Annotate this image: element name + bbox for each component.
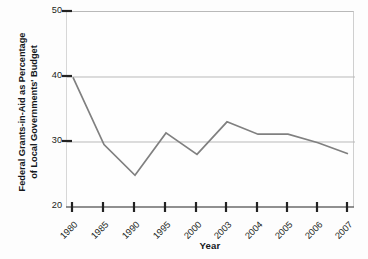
y-tick-label: 50	[42, 6, 62, 15]
plot-area	[66, 11, 354, 207]
line-chart-figure: Federal Grants-in-Aid as Percentage of L…	[0, 0, 368, 259]
data-series-line	[73, 77, 348, 175]
x-axis-title-text: Year	[199, 240, 220, 251]
y-tick-label: 30	[42, 136, 62, 145]
plot-svg	[67, 12, 355, 208]
y-axis-tick-labels: 50 40 30 20	[38, 0, 62, 259]
y-tick-label: 20	[42, 201, 62, 210]
y-axis-title-line-1: Federal Grants-in-Aid as Percentage	[16, 33, 28, 192]
y-tick-label: 40	[42, 71, 62, 80]
x-axis-title: Year	[0, 240, 368, 251]
